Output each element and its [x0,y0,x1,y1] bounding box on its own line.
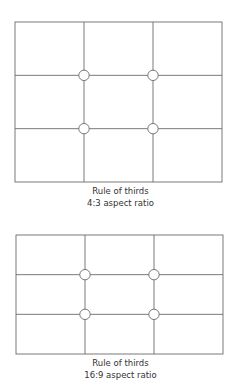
intersection-point-icon [80,309,90,319]
intersection-point-icon [149,269,159,279]
caption-title-16-9: Rule of thirds [0,358,241,369]
frame-border [16,235,223,354]
intersection-point-icon [79,123,89,133]
intersection-point-icon [149,309,159,319]
caption-ratio-4-3: 4:3 aspect ratio [0,198,241,209]
intersection-point-icon [148,70,158,80]
intersection-point-icon [148,123,158,133]
caption-ratio-16-9: 16:9 aspect ratio [0,370,241,381]
intersection-point-icon [79,70,89,80]
caption-title-4-3: Rule of thirds [0,186,241,197]
grid-4-3 [15,22,222,182]
grid-16-9 [16,235,223,354]
intersection-point-icon [80,269,90,279]
frame-border [15,22,222,182]
